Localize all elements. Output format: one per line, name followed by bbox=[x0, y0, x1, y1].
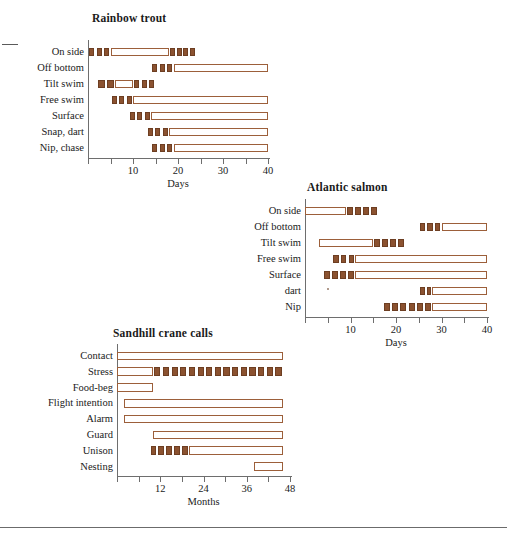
bar-segment-filled bbox=[148, 128, 153, 137]
row-label: Free swim bbox=[221, 253, 301, 264]
bar-segment-filled bbox=[333, 255, 338, 264]
bar-segment-open bbox=[355, 255, 487, 264]
x-tick-label: 20 bbox=[382, 324, 410, 335]
bar-segment-filled bbox=[249, 367, 255, 376]
bar-segment-filled bbox=[172, 367, 178, 376]
row-label: Stress bbox=[13, 366, 113, 377]
bar-segment-filled bbox=[425, 303, 431, 312]
row-label: Nesting bbox=[13, 461, 113, 472]
bar-segment-filled bbox=[182, 446, 188, 455]
bar-segment-filled bbox=[170, 48, 175, 57]
bar-segment-filled bbox=[149, 80, 154, 89]
bar-segment-filled bbox=[332, 271, 338, 280]
bar-segment-open bbox=[117, 383, 153, 392]
x-axis-tick bbox=[351, 318, 352, 323]
row-label: On side bbox=[4, 46, 84, 57]
bar-segment-filled bbox=[154, 367, 160, 376]
row-label: Free swim bbox=[4, 94, 84, 105]
x-axis-tick bbox=[204, 477, 205, 482]
bar-segment-filled bbox=[390, 239, 396, 248]
bar-segment-filled bbox=[409, 303, 415, 312]
bar-segment-filled bbox=[400, 303, 406, 312]
x-axis-line-sandhill-crane-calls bbox=[117, 476, 292, 477]
bar-segment-filled bbox=[152, 144, 157, 153]
y-axis-line-rainbow-trout bbox=[88, 40, 89, 158]
x-axis-tick bbox=[373, 318, 374, 323]
bar-segment-open bbox=[432, 287, 487, 296]
x-axis-tick bbox=[88, 159, 89, 164]
x-axis-tick bbox=[133, 159, 134, 164]
print-speck bbox=[327, 288, 329, 290]
x-axis-tick bbox=[223, 159, 224, 164]
x-axis-tick bbox=[178, 159, 179, 164]
x-axis-title-sandhill-crane-calls: Months bbox=[164, 496, 244, 507]
x-tick-label: 24 bbox=[190, 483, 218, 494]
x-axis-title-rainbow-trout: Days bbox=[138, 178, 218, 189]
bar-segment-filled bbox=[215, 367, 221, 376]
bar-segment-filled bbox=[232, 367, 238, 376]
x-axis-tick bbox=[246, 159, 247, 164]
x-tick-label: 20 bbox=[164, 165, 192, 176]
row-label: Snap, dart bbox=[4, 126, 84, 137]
x-axis-tick bbox=[201, 159, 202, 164]
bar-segment-filled bbox=[130, 112, 135, 121]
x-axis-tick bbox=[396, 318, 397, 323]
bar-segment-filled bbox=[349, 255, 354, 264]
bar-segment-filled bbox=[374, 239, 380, 248]
bar-segment-filled bbox=[151, 446, 157, 455]
bar-segment-filled bbox=[341, 255, 346, 264]
x-tick-label: 30 bbox=[428, 324, 456, 335]
bar-segment-filled bbox=[134, 80, 139, 89]
x-tick-label: 40 bbox=[254, 165, 282, 176]
bar-segment-open bbox=[442, 223, 488, 232]
x-axis-tick bbox=[487, 318, 488, 323]
bar-segment-open bbox=[355, 271, 487, 280]
bar-segment-open bbox=[174, 144, 269, 153]
x-tick-label: 40 bbox=[473, 324, 501, 335]
bar-segment-filled bbox=[198, 367, 204, 376]
x-tick-label: 12 bbox=[146, 483, 174, 494]
bar-segment-filled bbox=[137, 112, 142, 121]
bar-segment-filled bbox=[98, 80, 104, 89]
bar-segment-filled bbox=[355, 207, 361, 216]
row-label: Off bottom bbox=[4, 62, 84, 73]
bar-segment-filled bbox=[427, 223, 432, 232]
figure-page: Rainbow trout10203040DaysOn sideOff bott… bbox=[0, 0, 507, 541]
bar-segment-filled bbox=[160, 64, 165, 73]
bar-segment-open bbox=[117, 352, 283, 361]
bar-segment-filled bbox=[420, 287, 425, 296]
bar-segment-filled bbox=[324, 271, 330, 280]
chart-title-atlantic-salmon: Atlantic salmon bbox=[307, 181, 388, 193]
bar-segment-filled bbox=[155, 128, 160, 137]
bar-segment-filled bbox=[275, 367, 281, 376]
bar-segment-filled bbox=[177, 48, 182, 57]
bar-segment-open bbox=[111, 48, 170, 57]
row-label: Flight intention bbox=[13, 397, 113, 408]
bar-segment-filled bbox=[104, 48, 109, 57]
x-axis-tick bbox=[156, 159, 157, 164]
row-label: dart bbox=[221, 285, 301, 296]
x-axis-tick bbox=[419, 318, 420, 323]
x-axis-tick bbox=[182, 477, 183, 482]
chart-title-rainbow-trout: Rainbow trout bbox=[92, 12, 166, 24]
x-tick-label: 30 bbox=[209, 165, 237, 176]
left-margin-dash bbox=[2, 44, 18, 45]
bar-segment-open bbox=[189, 446, 283, 455]
bar-segment-filled bbox=[107, 80, 113, 89]
y-axis-line-sandhill-crane-calls bbox=[117, 344, 118, 476]
bar-segment-filled bbox=[417, 303, 423, 312]
x-axis-line-rainbow-trout bbox=[88, 158, 270, 159]
bar-segment-filled bbox=[167, 144, 172, 153]
bar-segment-open bbox=[254, 462, 283, 471]
bar-segment-filled bbox=[167, 64, 172, 73]
row-label: Tilt swim bbox=[4, 78, 84, 89]
bar-segment-filled bbox=[152, 64, 157, 73]
bar-segment-open bbox=[169, 128, 268, 137]
bar-segment-filled bbox=[142, 80, 147, 89]
row-label: Nip, chase bbox=[4, 142, 84, 153]
bar-segment-open bbox=[174, 64, 269, 73]
bar-segment-open bbox=[115, 80, 133, 89]
bar-segment-filled bbox=[127, 96, 132, 105]
bar-segment-filled bbox=[340, 271, 346, 280]
row-label: Surface bbox=[221, 269, 301, 280]
